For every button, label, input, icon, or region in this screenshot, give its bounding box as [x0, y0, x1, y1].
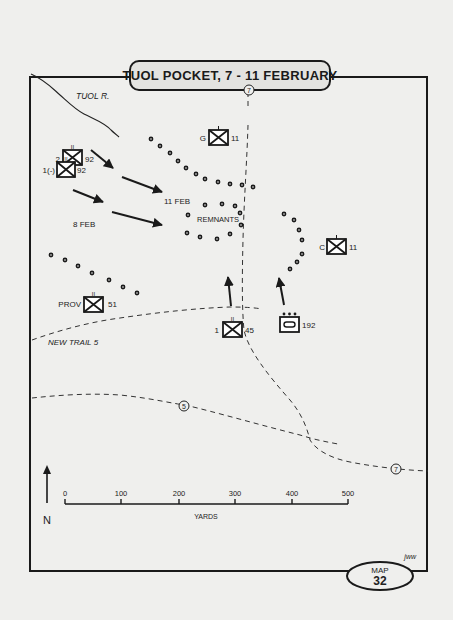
remnants-label: REMNANTS	[197, 215, 239, 224]
route-marker-5: 5	[179, 401, 189, 411]
unit-prov-51[interactable]: II PROV 51	[58, 291, 117, 312]
svg-text:II: II	[71, 144, 75, 150]
svg-text:192: 192	[302, 321, 316, 330]
tuol-river	[31, 74, 119, 137]
svg-text:5: 5	[182, 403, 186, 410]
attack-arrows	[73, 150, 284, 306]
svg-text:92: 92	[85, 155, 94, 164]
credit-initials: jww	[403, 553, 417, 561]
svg-text:45: 45	[245, 326, 254, 335]
svg-text:G: G	[200, 134, 206, 143]
svg-text:92: 92	[77, 166, 86, 175]
scale-ticks: 0 100 200 300 400 500	[63, 489, 354, 498]
river-label: TUOL R.	[76, 91, 109, 101]
arrow-1	[91, 150, 113, 168]
route-marker-7-east: 7	[391, 464, 401, 474]
route-7-north	[242, 92, 428, 471]
arrow-6	[279, 278, 284, 305]
svg-text:C: C	[319, 243, 325, 252]
svg-text:11: 11	[231, 134, 240, 143]
trail-label: NEW TRAIL 5	[48, 338, 99, 347]
arrow-2	[122, 177, 162, 192]
arrow-3	[73, 190, 103, 202]
arrow-5	[228, 277, 231, 306]
scale-bar	[65, 499, 348, 504]
svg-text:II: II	[92, 291, 96, 297]
svg-text:0: 0	[63, 489, 67, 498]
route-marker-7-north: 7	[244, 85, 254, 95]
date-label-11-feb: 11 FEB	[164, 197, 190, 206]
svg-text:II: II	[231, 316, 235, 322]
svg-text:PROV: PROV	[58, 300, 81, 309]
svg-text:500: 500	[342, 489, 355, 498]
svg-text:300: 300	[229, 489, 242, 498]
north-label: N	[43, 514, 51, 526]
svg-text:51: 51	[108, 300, 117, 309]
svg-text:11: 11	[349, 243, 358, 252]
svg-text:II: II	[64, 156, 68, 162]
svg-text:32: 32	[373, 574, 387, 588]
map-number-badge: MAP 32	[347, 562, 413, 590]
unit-192-armor[interactable]: 192	[280, 313, 316, 332]
svg-text:7: 7	[394, 466, 398, 473]
svg-text:7: 7	[247, 87, 251, 94]
title-banner: TUOL POCKET, 7 - 11 FEBRUARY	[123, 61, 338, 90]
svg-text:1(-): 1(-)	[43, 166, 56, 175]
svg-text:200: 200	[173, 489, 186, 498]
roads	[32, 92, 428, 471]
unit-1-45[interactable]: II 1 45	[215, 316, 255, 337]
arrow-4	[112, 212, 162, 225]
unit-c-11[interactable]: C 11	[319, 235, 358, 254]
svg-text:1: 1	[215, 326, 220, 335]
svg-text:100: 100	[115, 489, 128, 498]
tactical-map: TUOL POCKET, 7 - 11 FEBRUARY TUOL R. 7 5…	[0, 0, 453, 620]
date-label-8-feb: 8 FEB	[73, 220, 95, 229]
north-arrow: N	[43, 465, 51, 526]
map-title: TUOL POCKET, 7 - 11 FEBRUARY	[123, 68, 338, 83]
unit-g-11[interactable]: G 11	[200, 126, 240, 145]
scale-unit-label: YARDS	[194, 513, 218, 520]
svg-text:400: 400	[286, 489, 299, 498]
